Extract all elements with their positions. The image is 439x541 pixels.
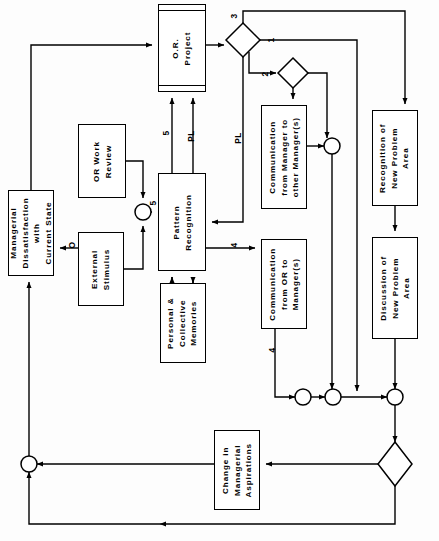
- node-label: OR Work Review: [91, 141, 114, 182]
- node-label: Personal & Collective Memories: [166, 297, 201, 348]
- edge-label-pl-b: PL: [233, 132, 243, 144]
- junction-row-c: [387, 389, 403, 405]
- node-pattern-recognition[interactable]: Pattern Recognition: [158, 173, 206, 271]
- node-label: External Stimulus: [89, 248, 112, 289]
- node-label: Communication from OR to Manager(s): [267, 248, 302, 321]
- junction-comm-mgr: [324, 138, 340, 154]
- junction-sum-left: [135, 204, 151, 220]
- node-label: Recognition of New Problem Area: [378, 123, 413, 192]
- node-label: Communication from Manager to other Mana…: [267, 117, 302, 197]
- node-external-stimulus[interactable]: External Stimulus: [78, 232, 124, 306]
- node-personal-collective-memories[interactable]: Personal & Collective Memories: [160, 283, 206, 363]
- junction-row-b: [325, 389, 341, 405]
- junction-bottom-left: [21, 456, 37, 472]
- edge-label-1: 1: [266, 37, 276, 42]
- edge-label-5-up: 5: [161, 130, 171, 135]
- node-or-project[interactable]: O.R. Project: [158, 4, 206, 92]
- flowchart-canvas: O.R. Project OR Work Review Managerial D…: [0, 0, 439, 541]
- node-communication-manager-to-manager[interactable]: Communication from Manager to other Mana…: [261, 105, 307, 209]
- edge-label-4-pr: 4: [229, 242, 239, 247]
- node-managerial-dissatisfaction[interactable]: Managerial Dissatisfaction with Current …: [8, 190, 54, 276]
- edge-label-2: 2: [260, 71, 270, 76]
- node-label: Managerial Dissatisfaction with Current …: [8, 197, 54, 268]
- edge-label-5-sum: 5: [148, 200, 158, 205]
- node-communication-or-to-manager[interactable]: Communication from OR to Manager(s): [261, 239, 307, 329]
- junction-row-a: [295, 389, 311, 405]
- node-change-in-managerial-aspirations[interactable]: Change in Managerial Aspirations: [214, 430, 260, 510]
- edge-label-3: 3: [229, 13, 239, 18]
- edge-label-pl-a: PL: [186, 130, 196, 142]
- node-recognition-of-new-problem-area[interactable]: Recognition of New Problem Area: [372, 110, 418, 206]
- node-or-work-review[interactable]: OR Work Review: [78, 124, 126, 198]
- node-label: Discussion of New Problem Area: [378, 256, 413, 321]
- edge-label-o: O: [67, 242, 77, 249]
- node-discussion-of-new-problem-area[interactable]: Discussion of New Problem Area: [372, 237, 418, 339]
- node-label: Pattern Recognition: [171, 194, 194, 251]
- edge-label-4-comm: 4: [267, 347, 277, 352]
- node-label: O.R. Project: [171, 31, 194, 65]
- node-label: Change in Managerial Aspirations: [220, 443, 255, 497]
